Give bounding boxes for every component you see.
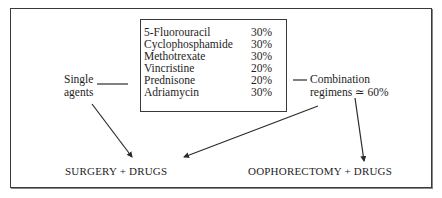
drug-name: Prednisone: [144, 74, 195, 86]
oophorectomy-drugs-outcome: OOPHORECTOMY + DRUGS: [248, 165, 392, 177]
drug-name: Adriamycin: [144, 86, 199, 98]
single-agents-line1: Single: [64, 73, 93, 86]
combination-regimens-label: Combination regimens ≃ 60%: [310, 73, 389, 98]
single-agents-line2: agents: [64, 86, 93, 99]
drug-row: Vincristine 20%: [141, 62, 286, 74]
drug-response-percent: 30%: [251, 86, 272, 98]
drug-name: Cyclophosphamide: [144, 38, 233, 50]
drug-response-table: 5-Fluorouracil 30% Cyclophosphamide 30% …: [140, 19, 287, 112]
drug-row: Methotrexate 30%: [141, 50, 286, 62]
drug-row: Cyclophosphamide 30%: [141, 38, 286, 50]
drug-name: Vincristine: [144, 62, 194, 74]
drug-name: Methotrexate: [144, 50, 205, 62]
drug-response-percent: 30%: [251, 26, 272, 38]
surgery-drugs-outcome: SURGERY + DRUGS: [65, 165, 167, 177]
single-agents-label: Single agents: [64, 73, 93, 98]
combination-regimens-line1: Combination: [310, 73, 389, 86]
drug-response-percent: 20%: [251, 74, 272, 86]
drug-row: Adriamycin 30%: [141, 86, 286, 98]
drug-response-percent: 20%: [251, 62, 272, 74]
drug-row: 5-Fluorouracil 30%: [141, 26, 286, 38]
combination-regimens-line2: regimens ≃ 60%: [310, 86, 389, 99]
drug-name: 5-Fluorouracil: [144, 26, 210, 38]
drug-response-percent: 30%: [251, 50, 272, 62]
drug-row: Prednisone 20%: [141, 74, 286, 86]
drug-response-percent: 30%: [251, 38, 272, 50]
